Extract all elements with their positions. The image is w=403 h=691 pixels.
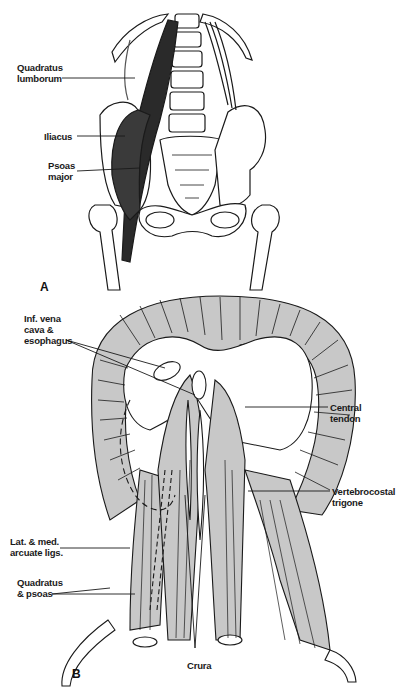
label-iliacus: Iliacus [44, 131, 72, 142]
panel-a-drawing [89, 14, 279, 290]
label-arcuate-ligaments: Lat. & med. arcuate ligs. [10, 536, 63, 558]
panel-letter-b: B [72, 667, 81, 681]
label-central-tendon: Central tendon [330, 402, 361, 424]
label-crura: Crura [187, 660, 211, 671]
label-psoas-major: Psoas major [48, 160, 75, 182]
label-vertebrocostal-trigone: Vertebrocostal trigone [332, 486, 395, 508]
label-quadratus-psoas: Quadratus & psoas [17, 577, 63, 599]
label-ivc-esophagus: Inf. vena cava & esophagus [24, 313, 72, 346]
label-quadratus-lumborum: Quadratus lumborum [17, 62, 63, 84]
panel-letter-a: A [40, 280, 49, 294]
